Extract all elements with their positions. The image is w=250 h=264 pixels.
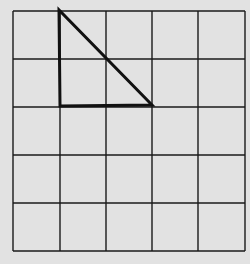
square-grid xyxy=(13,11,245,251)
grid-diagram xyxy=(0,0,250,264)
